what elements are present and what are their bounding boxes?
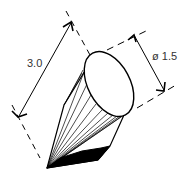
diameter-label: ø 1.5 xyxy=(152,50,177,62)
length-label: 3.0 xyxy=(27,57,42,69)
length-dimension-line xyxy=(12,22,73,117)
technical-drawing: 3.0 ø 1.5 xyxy=(0,0,187,183)
diameter-dimension-line xyxy=(128,35,165,91)
